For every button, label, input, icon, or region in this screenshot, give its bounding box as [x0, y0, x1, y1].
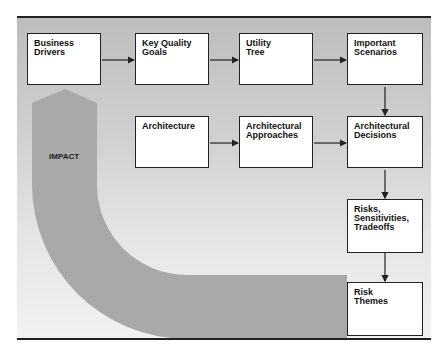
box-architectural-approaches: Architectural Approaches — [239, 116, 313, 168]
box-important-scenarios: Important Scenarios — [347, 33, 423, 85]
box-risks-sensitivities-tradeoffs: Risks, Sensitivities, Tradeoffs — [347, 199, 423, 253]
box-architecture: Architecture — [135, 116, 209, 168]
impact-label: IMPACT — [49, 152, 79, 161]
box-risk-themes: Risk Themes — [347, 282, 423, 336]
box-key-quality-goals: Key Quality Goals — [135, 33, 209, 85]
box-business-drivers: Business Drivers — [27, 33, 101, 85]
box-architectural-decisions: Architectural Decisions — [347, 116, 423, 168]
box-utility-tree: Utility Tree — [239, 33, 313, 85]
